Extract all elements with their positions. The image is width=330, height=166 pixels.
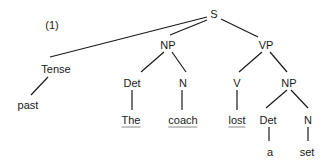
node-past: past [18,100,39,111]
branch-np-det-object [266,90,287,108]
node-np-subject: NP [160,40,175,51]
branch-np-n-object [291,90,308,108]
branch-np-n [172,52,186,72]
node-det-object: Det [259,115,276,126]
node-tense: Tense [41,64,70,75]
word-lost: lost [228,115,245,128]
node-s: S [210,9,217,20]
branch-tense-past [31,77,48,95]
word-coach: coach [168,115,197,128]
word-a: a [267,147,273,158]
example-number: (1) [45,20,58,31]
node-np-object: NP [281,78,296,89]
branch-s-vp [221,19,258,37]
node-det-subject: Det [123,78,140,89]
node-v: V [233,78,240,89]
node-n-object: N [304,115,312,126]
branch-vp-np [270,52,287,72]
branch-np-det [141,52,164,72]
word-the: The [122,115,141,128]
node-n-subject: N [179,78,187,89]
syntax-tree-diagram: (1) S Tense past NP Det N The coach VP V… [0,0,330,166]
word-set: set [300,147,315,158]
node-vp: VP [259,40,274,51]
branch-vp-v [239,52,262,72]
branch-s-tense [50,17,207,57]
